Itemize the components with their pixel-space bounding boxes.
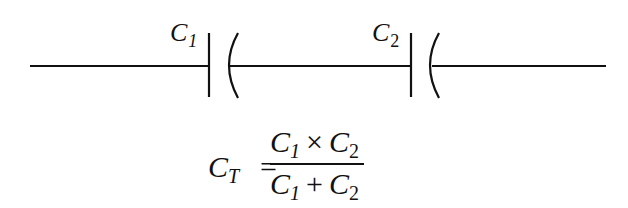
formula-lhs: CT — [208, 150, 239, 184]
c2-subscript: 2 — [390, 31, 399, 51]
den-a: C — [270, 167, 290, 200]
multiply-operator: × — [306, 125, 323, 158]
num-b: C — [329, 125, 349, 158]
numerator: C1×C2 — [270, 125, 364, 159]
c1-subscript: 1 — [188, 31, 197, 51]
lhs-symbol: C — [208, 150, 228, 183]
num-a-sub: 1 — [290, 140, 300, 162]
c2-symbol: C — [372, 18, 389, 47]
den-a-sub: 1 — [290, 182, 300, 204]
lhs-subscript: T — [228, 165, 239, 187]
den-b-sub: 2 — [349, 182, 359, 204]
num-a: C — [270, 125, 290, 158]
c1-symbol: C — [170, 18, 187, 47]
plus-operator: + — [306, 167, 323, 200]
den-b: C — [329, 167, 349, 200]
capacitor-c2-label: C2 — [372, 20, 399, 46]
capacitor-c1-label: C1 — [170, 20, 197, 46]
fraction-bar — [270, 163, 364, 165]
num-b-sub: 2 — [349, 140, 359, 162]
denominator: C1+C2 — [270, 167, 364, 201]
